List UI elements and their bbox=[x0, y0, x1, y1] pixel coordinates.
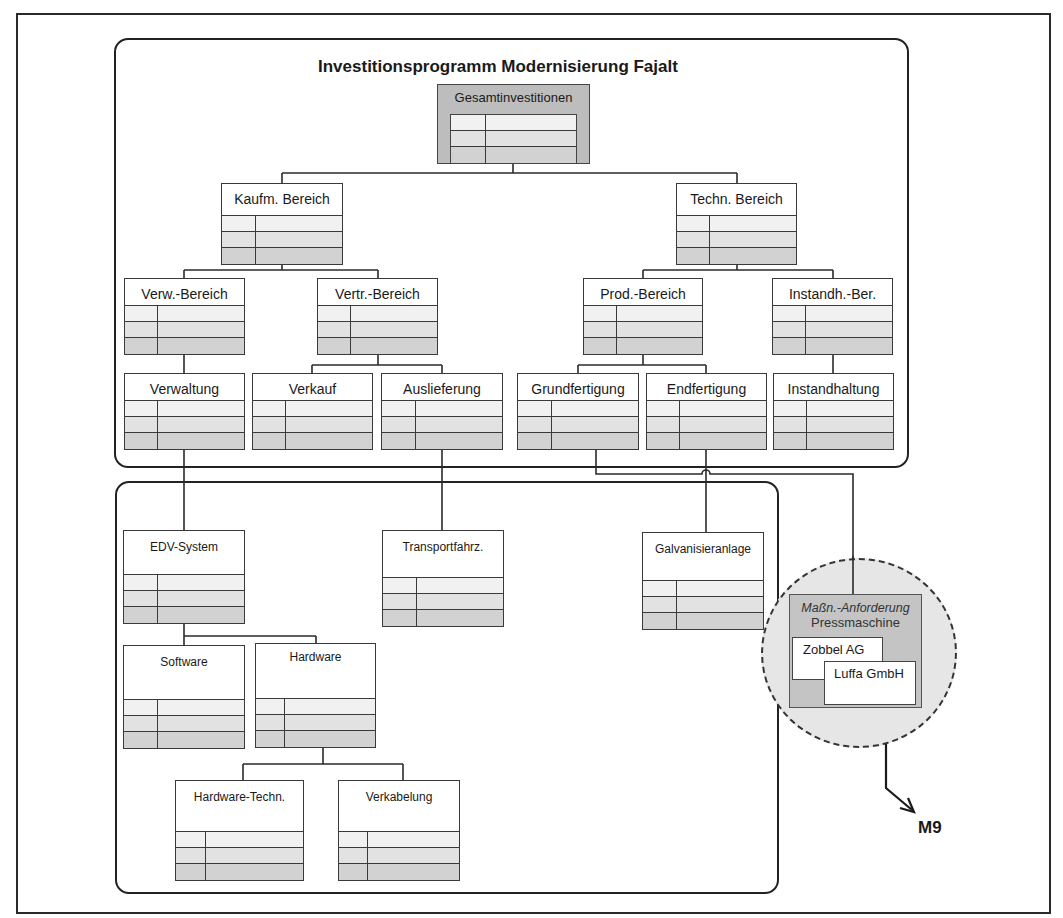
reference-label-m9: M9 bbox=[918, 818, 942, 838]
arrow-to-m9 bbox=[0, 0, 1063, 918]
